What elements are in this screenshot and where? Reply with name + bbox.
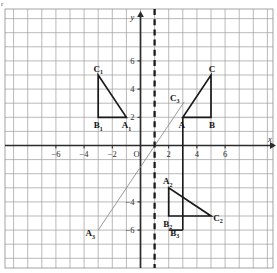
x-tick-label-2: −2 — [108, 149, 117, 159]
y-tick-label-4: −6 — [125, 225, 134, 235]
vertex-label-C: C — [209, 64, 216, 74]
vertex-label-A: A — [179, 120, 186, 130]
geometry-figure: r xy−6−4−2246642−4−6OABCA1B1C1A2B2C2C3B3… — [0, 0, 277, 273]
x-tick-label-5: 6 — [223, 149, 227, 159]
corner-mark: r — [1, 0, 3, 8]
coordinate-plane-svg: xy−6−4−2246642−4−6OABCA1B1C1A2B2C2C3B3A3 — [0, 0, 277, 273]
x-tick-label-1: −4 — [80, 149, 90, 159]
y-tick-label-2: 2 — [130, 112, 134, 122]
y-tick-label-3: −4 — [125, 197, 135, 207]
x-tick-label-0: −6 — [51, 149, 60, 159]
y-axis-name: y — [130, 12, 135, 22]
x-tick-label-3: 2 — [167, 149, 171, 159]
vertex-label-B: B — [209, 120, 215, 130]
x-axis-name: x — [267, 134, 272, 144]
origin-label: O — [133, 149, 139, 159]
y-tick-label-0: 6 — [130, 56, 134, 66]
x-tick-label-4: 4 — [195, 149, 200, 159]
